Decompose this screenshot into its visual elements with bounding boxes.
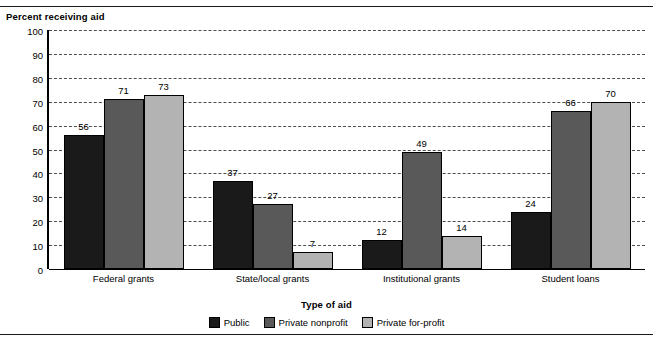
y-axis-tick-label: 60 xyxy=(7,123,43,133)
bar[interactable]: 70 xyxy=(591,102,631,269)
bar-group: 567173 xyxy=(64,30,184,269)
bar[interactable]: 14 xyxy=(442,236,482,269)
y-axis-tick-label: 50 xyxy=(7,147,43,157)
x-axis-category-label: Federal grants xyxy=(93,274,154,284)
bar-value-label: 24 xyxy=(525,199,536,209)
bar[interactable]: 73 xyxy=(144,95,184,269)
legend-label: Public xyxy=(224,318,250,328)
bar[interactable]: 56 xyxy=(64,135,104,269)
y-axis-tick-label: 90 xyxy=(7,51,43,61)
bottom-divider-rule xyxy=(0,334,653,335)
plot-area: 1009080706050403020100 56717337277124914… xyxy=(47,30,645,268)
y-axis-tick-label: 100 xyxy=(7,27,43,37)
y-axis-tick-label: 80 xyxy=(7,75,43,85)
x-axis-category-label: State/local grants xyxy=(236,274,309,284)
bar-value-label: 37 xyxy=(227,168,238,178)
legend-swatch-icon xyxy=(362,317,373,328)
bar[interactable]: 27 xyxy=(253,204,293,269)
y-axis-tick-label: 20 xyxy=(7,218,43,228)
bar-group: 37277 xyxy=(213,30,333,269)
bar[interactable]: 49 xyxy=(402,152,442,269)
top-divider-rule xyxy=(0,6,653,7)
bar-value-label: 70 xyxy=(605,89,616,99)
y-axis-tick-label: 0 xyxy=(7,266,43,276)
bar-value-label: 7 xyxy=(310,239,315,249)
bar-value-label: 66 xyxy=(565,98,576,108)
legend-swatch-icon xyxy=(209,317,220,328)
bar-group: 246670 xyxy=(511,30,631,269)
legend-label: Private nonprofit xyxy=(279,318,348,328)
x-axis-category-label: Institutional grants xyxy=(383,274,460,284)
bars-group: 56717337277124914246670 xyxy=(49,30,645,269)
chart-legend: PublicPrivate nonprofitPrivate for-profi… xyxy=(0,317,653,328)
legend-swatch-icon xyxy=(264,317,275,328)
bar-value-label: 14 xyxy=(456,223,467,233)
bar[interactable]: 71 xyxy=(104,99,144,269)
legend-item[interactable]: Private for-profit xyxy=(362,317,445,328)
bar-group: 124914 xyxy=(362,30,482,269)
bar-value-label: 56 xyxy=(78,122,89,132)
bar[interactable]: 12 xyxy=(362,240,402,269)
y-axis-tick-label: 70 xyxy=(7,99,43,109)
bar[interactable]: 7 xyxy=(293,252,333,269)
y-axis-tick-label: 40 xyxy=(7,170,43,180)
bar-value-label: 12 xyxy=(376,227,387,237)
y-axis-tick-label: 30 xyxy=(7,194,43,204)
legend-item[interactable]: Public xyxy=(209,317,250,328)
x-axis-category-labels: Federal grantsState/local grantsInstitut… xyxy=(49,274,645,288)
bar-value-label: 73 xyxy=(158,82,169,92)
gridline-0: 0 xyxy=(49,269,645,270)
bar[interactable]: 24 xyxy=(511,212,551,269)
x-axis-category-label: Student loans xyxy=(541,274,599,284)
x-axis-title: Type of aid xyxy=(0,299,653,310)
y-axis-title: Percent receiving aid xyxy=(6,11,105,22)
legend-item[interactable]: Private nonprofit xyxy=(264,317,348,328)
bar-value-label: 49 xyxy=(416,139,427,149)
bar-value-label: 71 xyxy=(118,86,129,96)
bar-value-label: 27 xyxy=(267,191,278,201)
legend-label: Private for-profit xyxy=(377,318,445,328)
bar[interactable]: 66 xyxy=(551,111,591,269)
bar[interactable]: 37 xyxy=(213,181,253,269)
y-axis-tick-label: 10 xyxy=(7,242,43,252)
